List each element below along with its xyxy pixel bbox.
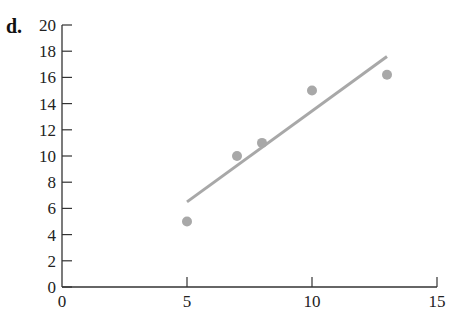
x-tick-label: 5 — [183, 292, 192, 311]
x-tick-label: 10 — [304, 292, 321, 311]
scatter-chart: d. 02468101214161820051015 — [0, 0, 449, 315]
data-point — [257, 138, 267, 148]
y-tick-label: 14 — [39, 95, 57, 114]
y-tick-label: 12 — [39, 121, 56, 140]
plot-area — [182, 56, 392, 226]
y-tick-label: 2 — [48, 252, 57, 271]
y-tick-label: 0 — [48, 278, 57, 297]
data-point — [382, 70, 392, 80]
y-tick-label: 6 — [48, 199, 57, 218]
fit-line — [187, 56, 387, 201]
y-tick-label: 10 — [39, 147, 56, 166]
y-tick-label: 18 — [39, 42, 56, 61]
y-tick-label: 20 — [39, 16, 56, 35]
panel-label: d. — [6, 15, 22, 37]
data-point — [232, 151, 242, 161]
y-tick-label: 16 — [39, 68, 56, 87]
y-tick-label: 8 — [48, 173, 57, 192]
data-point — [182, 217, 192, 227]
y-tick-label: 4 — [48, 226, 57, 245]
x-tick-label: 15 — [429, 292, 446, 311]
data-point — [307, 86, 317, 96]
x-tick-label: 0 — [58, 292, 67, 311]
